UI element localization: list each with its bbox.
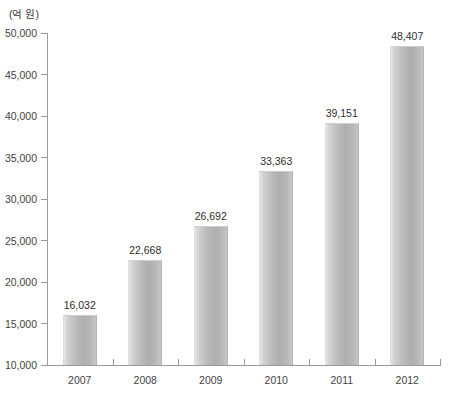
x-axis-category-label: 2012 <box>374 374 440 386</box>
y-axis-tick-label: 35,000 <box>0 152 37 164</box>
y-axis-tick <box>41 240 47 241</box>
y-axis-line <box>47 33 48 366</box>
y-axis-unit-caption: (억 원) <box>9 6 39 21</box>
x-axis-category-label: 2007 <box>47 374 113 386</box>
y-axis-tick-label: 20,000 <box>0 276 37 288</box>
y-axis-tick <box>41 116 47 117</box>
bar-value-label: 22,668 <box>109 244 181 256</box>
bar-chart: (억 원) 10,00015,00020,00025,00030,00035,0… <box>0 0 457 399</box>
x-axis-category-label: 2011 <box>309 374 375 386</box>
y-axis-tick-label: 10,000 <box>0 359 37 371</box>
x-axis-tick <box>244 359 245 365</box>
x-axis-tick <box>309 359 310 365</box>
bar <box>194 226 228 365</box>
y-axis-tick <box>41 157 47 158</box>
x-axis-tick <box>113 359 114 365</box>
bar-value-label: 33,363 <box>240 155 312 167</box>
x-axis-tick <box>178 359 179 365</box>
x-axis-category-label: 2009 <box>178 374 244 386</box>
y-axis-tick <box>41 365 47 366</box>
y-axis-tick-label: 50,000 <box>0 27 37 39</box>
bar <box>128 260 162 365</box>
y-axis-tick-label: 40,000 <box>0 110 37 122</box>
y-axis-tick-label: 25,000 <box>0 235 37 247</box>
bar <box>63 315 97 365</box>
bar-value-label: 48,407 <box>371 30 443 42</box>
bar-value-label: 16,032 <box>44 299 116 311</box>
y-axis-tick-label: 45,000 <box>0 69 37 81</box>
x-axis-tick <box>375 359 376 365</box>
bar <box>325 123 359 365</box>
bar-value-label: 39,151 <box>306 107 378 119</box>
x-axis-category-label: 2008 <box>112 374 178 386</box>
y-axis-tick <box>41 33 47 34</box>
y-axis-tick-label: 15,000 <box>0 318 37 330</box>
y-axis-tick-label: 30,000 <box>0 193 37 205</box>
y-axis-tick <box>41 74 47 75</box>
bar-value-label: 26,692 <box>175 210 247 222</box>
y-axis-tick <box>41 282 47 283</box>
bar <box>390 46 424 365</box>
x-axis-line <box>47 365 441 366</box>
y-axis-tick <box>41 199 47 200</box>
x-axis-category-label: 2010 <box>243 374 309 386</box>
y-axis-tick <box>41 323 47 324</box>
x-axis-tick <box>440 359 441 365</box>
bar <box>259 171 293 365</box>
